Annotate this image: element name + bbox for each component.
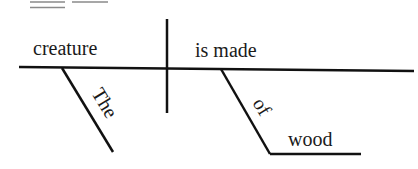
main-baseline bbox=[19, 67, 414, 71]
sentence-diagram: creature is made The of wood bbox=[0, 0, 418, 169]
article-modifier-word: The bbox=[88, 84, 123, 122]
subject-word: creature bbox=[33, 37, 98, 59]
preposition-word: of bbox=[249, 93, 277, 119]
top-marks bbox=[30, 2, 108, 8]
predicate-word: is made bbox=[195, 39, 257, 61]
prepositional-object-word: wood bbox=[288, 128, 332, 150]
